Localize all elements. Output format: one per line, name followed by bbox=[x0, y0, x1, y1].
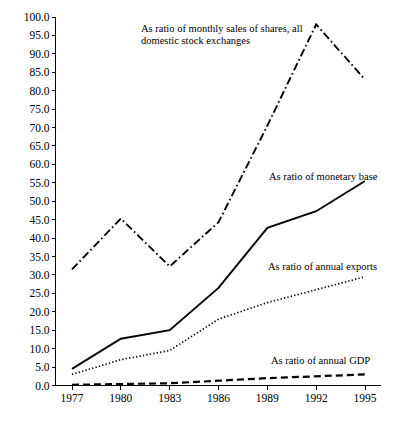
y-axis-tick-label: 10.0 bbox=[29, 343, 49, 355]
annotation-monetary-base: As ratio of monetary base bbox=[269, 171, 378, 182]
y-axis-tick-label: 65.0 bbox=[29, 140, 49, 152]
y-axis-tick-label: 25.0 bbox=[29, 287, 49, 299]
y-axis-tick-label: 30.0 bbox=[29, 269, 49, 281]
annotation-stock-sales: As ratio of monthly sales of shares, all… bbox=[141, 23, 303, 46]
x-axis-tick-label: 1980 bbox=[109, 392, 132, 404]
x-axis-tick-label: 1983 bbox=[158, 392, 181, 404]
y-axis-tick-label: 15.0 bbox=[29, 324, 49, 336]
y-axis-tick-label: 35.0 bbox=[29, 251, 49, 263]
y-axis-tick-label: 20.0 bbox=[29, 306, 49, 318]
y-axis-tick-marks bbox=[52, 17, 56, 386]
series-line-undefined bbox=[72, 181, 365, 369]
chart-container: 0.05.010.015.020.025.030.035.040.045.050… bbox=[0, 0, 403, 425]
x-axis-tick-label: 1992 bbox=[305, 392, 328, 404]
data-series-group bbox=[72, 24, 365, 384]
x-axis-tick-label: 1986 bbox=[207, 392, 230, 404]
y-axis-tick-label: 70.0 bbox=[29, 122, 49, 134]
y-axis-tick-label: 40.0 bbox=[29, 232, 49, 244]
x-axis-tick-marks bbox=[72, 386, 365, 390]
x-axis-tick-label: 1995 bbox=[354, 392, 377, 404]
y-axis-tick-label: 95.0 bbox=[29, 29, 49, 41]
y-axis-tick-label: 75.0 bbox=[29, 103, 49, 115]
y-axis-tick-label: 85.0 bbox=[29, 66, 49, 78]
y-axis-tick-label: 55.0 bbox=[29, 177, 49, 189]
y-axis-tick-label: 45.0 bbox=[29, 214, 49, 226]
x-axis-tick-label: 1977 bbox=[61, 392, 84, 404]
x-axis-tick-labels: 1977198019831986198919921995 bbox=[61, 392, 377, 404]
y-axis-tick-label: 80.0 bbox=[29, 85, 49, 97]
y-axis-tick-label: 5.0 bbox=[35, 361, 50, 373]
series-line-undefined bbox=[72, 24, 365, 269]
annotation-annual-exports: As ratio of annual exports bbox=[268, 261, 377, 272]
annotation-annual-gdp: As ratio of annual GDP bbox=[271, 355, 370, 366]
y-axis-tick-label: 60.0 bbox=[29, 158, 49, 170]
series-line-undefined bbox=[72, 374, 365, 384]
line-chart: 0.05.010.015.020.025.030.035.040.045.050… bbox=[0, 0, 403, 425]
y-axis-tick-label: 50.0 bbox=[29, 195, 49, 207]
y-axis-tick-labels: 0.05.010.015.020.025.030.035.040.045.050… bbox=[24, 11, 50, 392]
x-axis-tick-label: 1989 bbox=[256, 392, 279, 404]
y-axis-tick-label: 0.0 bbox=[35, 380, 50, 392]
y-axis-tick-label: 100.0 bbox=[24, 11, 50, 23]
y-axis-tick-label: 90.0 bbox=[29, 48, 49, 60]
